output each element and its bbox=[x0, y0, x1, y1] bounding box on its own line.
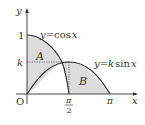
ksin-curve-label: y=ksinx bbox=[93, 58, 137, 69]
region-a-label: A bbox=[35, 50, 44, 63]
svg-text:y=ksinx: y=ksinx bbox=[93, 58, 137, 69]
region-b-label: B bbox=[78, 75, 87, 88]
y-tick-one: 1 bbox=[18, 30, 24, 41]
x-tick-pi-half-numerator: π bbox=[65, 96, 72, 105]
y-axis-label: y bbox=[15, 5, 22, 16]
x-tick-pi-half-denominator: 2 bbox=[67, 106, 72, 115]
x-axis-label: x bbox=[132, 95, 138, 106]
svg-text:y=cosx: y=cosx bbox=[39, 29, 78, 40]
y-axis-arrow-icon bbox=[25, 8, 29, 13]
x-tick-pi: π bbox=[106, 96, 114, 106]
cos-curve-label: y=cosx bbox=[39, 29, 78, 40]
y-tick-k: k bbox=[17, 57, 23, 68]
diagram-canvas: y x O 1 k π 2 π y=cosx y=ksinx A B bbox=[0, 0, 145, 125]
origin-label: O bbox=[16, 96, 24, 107]
